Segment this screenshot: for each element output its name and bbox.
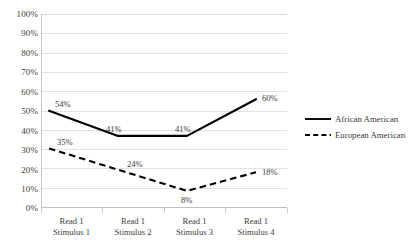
chart-legend: African American European American: [305, 111, 417, 143]
legend-solid-line-icon: [305, 114, 331, 124]
x-axis-label-2-line1: Read 1: [164, 216, 225, 227]
x-axis-label-0: Read 1 Stimulus 1: [41, 216, 102, 238]
line-chart: 100% 90% 80% 70% 60% 50% 40% 30% 20% 10%…: [0, 0, 420, 251]
x-axis-label-1-line1: Read 1: [102, 216, 164, 227]
data-label-african-american-3: 41%: [175, 125, 191, 134]
x-axis-label-3: Read 1 Stimulus 4: [225, 216, 287, 238]
legend-dashed-line-icon: [305, 130, 331, 140]
x-axis-label-3-line2: Stimulus 4: [225, 227, 287, 238]
series-line-african-american: [49, 99, 256, 136]
data-label-european-american-4: 18%: [262, 168, 278, 177]
x-axis-label-1-line2: Stimulus 2: [102, 227, 164, 238]
legend-label-european-american: European American: [335, 130, 405, 140]
x-axis-label-0-line2: Stimulus 1: [41, 227, 102, 238]
x-axis-label-1: Read 1 Stimulus 2: [102, 216, 164, 238]
data-label-african-american-4: 60%: [262, 94, 278, 103]
data-label-african-american-1: 54%: [55, 100, 71, 109]
legend-label-african-american: African American: [335, 114, 398, 124]
x-axis-label-3-line1: Read 1: [225, 216, 287, 227]
series-line-european-american: [49, 148, 256, 191]
data-label-european-american-3: 8%: [181, 196, 192, 205]
data-label-african-american-2: 41%: [106, 125, 122, 134]
legend-item-european-american: European American: [305, 127, 417, 143]
x-axis-label-2: Read 1 Stimulus 3: [164, 216, 225, 238]
data-label-european-american-2: 24%: [127, 160, 143, 169]
x-axis-label-2-line2: Stimulus 3: [164, 227, 225, 238]
data-label-european-american-1: 35%: [57, 138, 73, 147]
x-axis-label-0-line1: Read 1: [41, 216, 102, 227]
legend-item-african-american: African American: [305, 111, 417, 127]
